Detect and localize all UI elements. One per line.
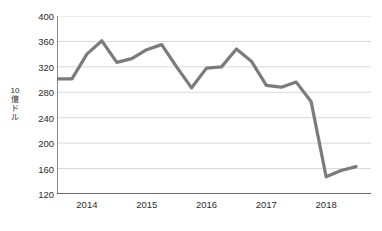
x-axis-tick-labels: 20142015201620172018 [0,199,382,219]
y-axis-tick-label: 320 [24,61,54,72]
gridlines [57,16,371,169]
plot-svg [57,16,371,194]
y-axis-tick-label: 400 [24,11,54,22]
data-series [57,41,356,177]
x-axis-tick-label: 2015 [127,199,167,210]
y-axis-tick-label: 160 [24,163,54,174]
plot-area [57,16,371,194]
line-chart: 10 億 ド ル 120160200240280320360400 201420… [0,0,382,231]
y-axis-tick-label: 240 [24,112,54,123]
y-axis-tick-labels: 120160200240280320360400 [22,0,54,231]
y-axis-tick-label: 200 [24,138,54,149]
x-axis-tick-label: 2016 [187,199,227,210]
x-axis-tick-label: 2014 [67,199,107,210]
y-axis-tick-label: 120 [24,189,54,200]
y-axis-tick-label: 280 [24,87,54,98]
x-axis-tick-label: 2017 [246,199,286,210]
x-axis-tick-label: 2018 [306,199,346,210]
series-line [57,41,356,177]
y-axis-tick-label: 360 [24,36,54,47]
